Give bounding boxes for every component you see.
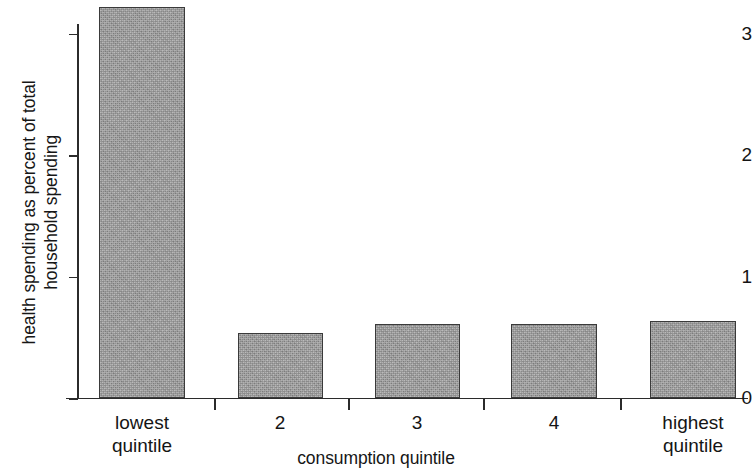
y-tick-label-3: 3 [724, 23, 752, 45]
y-axis-line [77, 24, 79, 399]
x-category-label-2: 3 [357, 411, 477, 434]
bar-quintile-4 [511, 324, 597, 398]
bar-quintile-3 [375, 324, 460, 398]
x-tick-1 [214, 399, 216, 410]
x-category-label-3: 4 [494, 411, 614, 434]
x-axis-title: consumption quintile [0, 448, 752, 469]
y-tick-1 [69, 277, 78, 279]
bar-quintile-2 [238, 333, 323, 398]
y-axis-title: health spending as percent of total hous… [18, 12, 63, 412]
y-tick-label-2: 2 [724, 144, 752, 166]
x-tick-3 [483, 399, 485, 410]
bar-lowest-quintile [99, 7, 185, 398]
x-category-label-1: 2 [220, 411, 340, 434]
bar-chart: health spending as percent of total hous… [0, 0, 752, 475]
y-tick-label-1: 1 [724, 266, 752, 288]
y-tick-0 [69, 398, 78, 400]
y-tick-3 [69, 34, 78, 36]
x-tick-2 [348, 399, 350, 410]
y-tick-2 [69, 155, 78, 157]
x-tick-4 [620, 399, 622, 410]
bar-highest-quintile [650, 321, 736, 398]
